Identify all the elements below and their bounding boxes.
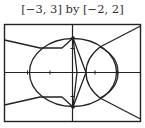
plot-area	[0, 0, 145, 128]
top-point-marker	[71, 36, 75, 40]
right-branch-lower	[100, 98, 141, 119]
right-branch-upper	[100, 26, 141, 47]
bottom-point-marker	[71, 105, 75, 109]
